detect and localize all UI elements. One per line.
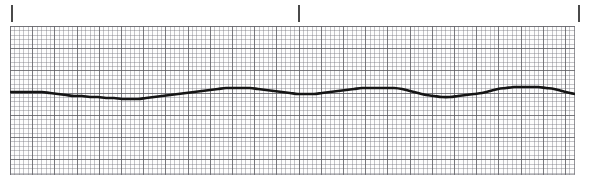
ecg-rhythm-strip: ECG Rhythm Strip (0, 0, 590, 189)
ecg-graph-paper (10, 26, 575, 175)
tick-mark-mid (298, 5, 300, 22)
tick-mark-start (11, 5, 13, 22)
tick-mark-end (578, 5, 580, 22)
tick-mark-row (0, 0, 590, 26)
